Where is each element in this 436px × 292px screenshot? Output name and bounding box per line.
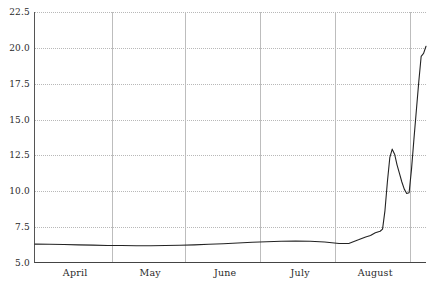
series-layer — [35, 12, 426, 262]
plot-area — [34, 12, 426, 263]
y-tick-label: 12.5 — [9, 151, 30, 160]
line-chart: 22.520.017.515.012.510.07.55.0 AprilMayJ… — [0, 0, 436, 292]
y-tick-label: 22.5 — [9, 8, 30, 17]
y-tick-label: 7.5 — [15, 223, 30, 232]
data-line-series — [35, 46, 426, 245]
y-tick-label: 10.0 — [9, 187, 30, 196]
x-tick-label: May — [139, 268, 160, 278]
x-tick-label: June — [214, 268, 236, 278]
x-tick-label: July — [291, 268, 310, 278]
y-tick-label: 20.0 — [9, 44, 30, 53]
x-tick-label: August — [358, 268, 393, 278]
y-tick-label: 5.0 — [15, 259, 30, 268]
x-tick-label: April — [63, 268, 88, 278]
x-axis-tick-labels: AprilMayJuneJulyAugust — [0, 268, 436, 286]
y-tick-label: 15.0 — [9, 116, 30, 125]
y-tick-label: 17.5 — [9, 80, 30, 89]
y-axis-tick-labels: 22.520.017.515.012.510.07.55.0 — [0, 0, 30, 292]
